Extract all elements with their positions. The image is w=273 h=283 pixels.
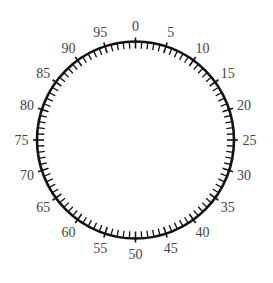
circular-dial: 05101520253035404550556065707580859095: [0, 0, 273, 283]
minor-tick: [83, 217, 87, 223]
minor-tick: [68, 68, 73, 73]
minor-tick: [38, 151, 45, 152]
tick-label-75: 75: [15, 133, 29, 148]
tick-label-85: 85: [36, 66, 50, 81]
tick-labels: 05101520253035404550556065707580859095: [15, 19, 257, 262]
tick-label-55: 55: [93, 241, 107, 256]
minor-tick: [83, 57, 87, 63]
tick-label-65: 65: [36, 200, 50, 215]
minor-tick: [64, 203, 69, 208]
minor-tick: [226, 151, 233, 152]
minor-tick: [147, 231, 148, 238]
minor-tick: [46, 98, 52, 101]
minor-tick: [49, 93, 55, 96]
minor-tick: [123, 42, 124, 49]
minor-tick: [226, 128, 233, 129]
minor-tick: [224, 163, 231, 165]
minor-tick: [206, 198, 211, 202]
minor-tick: [194, 64, 198, 69]
tick-label-5: 5: [167, 25, 174, 40]
tick-label-50: 50: [129, 247, 143, 262]
minor-tick: [216, 184, 222, 187]
tick-label-45: 45: [164, 241, 178, 256]
minor-tick: [88, 54, 91, 60]
minor-tick: [52, 87, 58, 91]
tick-label-30: 30: [237, 168, 251, 183]
dial-ring: [37, 42, 234, 239]
tick-label-10: 10: [196, 41, 210, 56]
minor-tick: [73, 64, 77, 69]
tick-label-80: 80: [20, 98, 34, 113]
tick-label-35: 35: [221, 200, 235, 215]
minor-tick: [44, 174, 51, 177]
minor-tick: [158, 229, 160, 236]
minor-tick: [169, 225, 172, 232]
minor-tick: [60, 198, 65, 202]
minor-tick: [94, 223, 97, 229]
minor-tick: [218, 98, 224, 101]
minor-tick: [49, 184, 55, 187]
minor-tick: [99, 225, 102, 232]
minor-tick: [40, 163, 47, 165]
minor-tick: [206, 77, 211, 81]
tick-label-0: 0: [132, 19, 139, 34]
minor-tick: [202, 73, 207, 78]
minor-tick: [73, 211, 77, 216]
minor-tick: [185, 57, 189, 63]
minor-tick: [174, 223, 177, 229]
minor-tick: [198, 207, 203, 212]
minor-tick: [174, 51, 177, 57]
minor-tick: [213, 87, 219, 91]
tick-label-20: 20: [237, 98, 251, 113]
minor-tick: [88, 220, 91, 226]
minor-tick: [40, 116, 47, 118]
tick-marks: [33, 38, 238, 243]
minor-tick: [169, 48, 172, 55]
minor-tick: [147, 42, 148, 49]
minor-tick: [202, 203, 207, 208]
tick-label-15: 15: [221, 66, 235, 81]
minor-tick: [185, 217, 189, 223]
minor-tick: [46, 179, 52, 182]
tick-label-90: 90: [61, 41, 75, 56]
minor-tick: [180, 54, 183, 60]
minor-tick: [99, 48, 102, 55]
minor-tick: [213, 189, 219, 193]
minor-tick: [224, 116, 231, 118]
minor-tick: [216, 93, 222, 96]
minor-tick: [44, 104, 51, 107]
tick-label-25: 25: [243, 133, 257, 148]
minor-tick: [38, 128, 45, 129]
minor-tick: [60, 77, 65, 81]
tick-label-70: 70: [20, 168, 34, 183]
tick-label-40: 40: [196, 225, 210, 240]
minor-tick: [218, 179, 224, 182]
minor-tick: [194, 211, 198, 216]
tick-label-60: 60: [61, 225, 75, 240]
minor-tick: [180, 220, 183, 226]
minor-tick: [111, 229, 113, 236]
tick-label-95: 95: [93, 25, 107, 40]
minor-tick: [64, 73, 69, 78]
minor-tick: [158, 45, 160, 52]
minor-tick: [68, 207, 73, 212]
minor-tick: [52, 189, 58, 193]
minor-tick: [123, 231, 124, 238]
minor-tick: [111, 45, 113, 52]
minor-tick: [198, 68, 203, 73]
minor-tick: [221, 174, 228, 177]
minor-tick: [221, 104, 228, 107]
minor-tick: [94, 51, 97, 57]
